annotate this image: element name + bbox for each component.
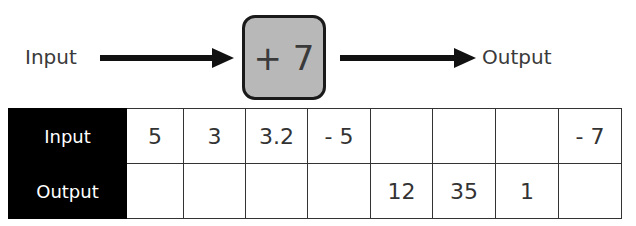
table-cell [371, 109, 433, 164]
table-cell: 12 [371, 164, 433, 219]
table-cell: 1 [496, 164, 559, 219]
input-label: Input [25, 45, 77, 69]
arrow-right-icon [100, 46, 236, 70]
table-cell: 3.2 [246, 109, 308, 164]
table-cell: 3 [184, 109, 246, 164]
table-cell: 35 [433, 164, 496, 219]
table-cell [496, 109, 559, 164]
table-cell [246, 164, 308, 219]
table-cell: 5 [127, 109, 184, 164]
input-output-table: Input 5 3 3.2 - 5 - 7 Output 12 35 1 [8, 108, 622, 219]
arrow-right-icon [340, 46, 478, 70]
table-cell [184, 164, 246, 219]
function-label: + 7 [254, 38, 315, 78]
output-label: Output [482, 45, 551, 69]
function-box: + 7 [242, 15, 326, 100]
row-header-output: Output [9, 164, 127, 219]
table-cell [559, 164, 622, 219]
table-cell [127, 164, 184, 219]
table-cell [433, 109, 496, 164]
table-cell [308, 164, 371, 219]
table-cell: - 5 [308, 109, 371, 164]
table-cell: - 7 [559, 109, 622, 164]
table-row-output: Output 12 35 1 [9, 164, 622, 219]
table-row-input: Input 5 3 3.2 - 5 - 7 [9, 109, 622, 164]
row-header-input: Input [9, 109, 127, 164]
